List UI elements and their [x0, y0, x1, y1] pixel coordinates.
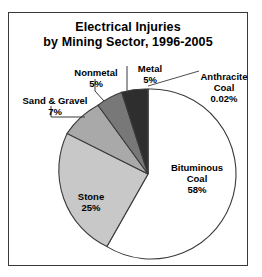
pie-label-bituminous-coal: Bituminous Coal 58% [164, 162, 230, 195]
pie-label-sand-gravel-name: Sand & Gravel [23, 95, 88, 106]
pie-label-sand-gravel-value: 7% [48, 106, 62, 117]
pie-label-stone-value: 25% [81, 202, 100, 213]
pie-label-metal-value: 5% [143, 74, 157, 85]
pie-label-nonmetal: Nonmetal 5% [65, 67, 127, 89]
pie-label-metal-name: Metal [138, 63, 162, 74]
chart-frame: Electrical Injuries by Mining Sector, 19… [8, 12, 248, 266]
pie-label-anthracite-coal-name-1: Anthracite [201, 71, 248, 82]
pie-label-metal: Metal 5% [128, 63, 172, 85]
pie-label-nonmetal-name: Nonmetal [74, 67, 117, 78]
pie-label-bituminous-coal-value: 58% [187, 184, 206, 195]
pie-label-anthracite-coal-name-2: Coal [214, 82, 235, 93]
pie-label-bituminous-coal-name-1: Bituminous [171, 162, 223, 173]
pie-label-anthracite-coal-value: 0.02% [211, 93, 238, 104]
pie-label-anthracite-coal: Anthracite Coal 0.02% [188, 71, 260, 104]
pie-chart [9, 13, 247, 265]
pie-label-nonmetal-value: 5% [89, 78, 103, 89]
pie-label-bituminous-coal-name-2: Coal [187, 173, 208, 184]
pie-label-sand-gravel: Sand & Gravel 7% [14, 95, 96, 117]
pie-label-stone: Stone 25% [67, 191, 115, 213]
pie-label-stone-name: Stone [78, 191, 104, 202]
